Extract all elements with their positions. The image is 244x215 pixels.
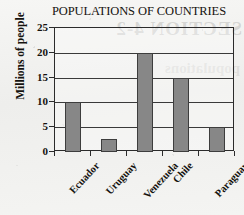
x-axis-tick-label: Uruguay — [104, 160, 139, 197]
y-axis-tick-label: 10 — [20, 95, 48, 107]
y-axis-tick-label: 5 — [20, 120, 48, 132]
y-axis-labels-group: 0510152025 — [12, 0, 48, 215]
y-axis-tick — [49, 77, 54, 78]
y-axis-tick-label: 0 — [20, 145, 48, 157]
bar — [101, 139, 117, 152]
x-axis-tick — [126, 151, 127, 156]
x-axis-tick-label: Paraguay — [213, 160, 244, 199]
bar-chart: POPULATIONS OF COUNTRIES Millions of peo… — [0, 0, 244, 215]
x-axis-tick-label: Ecuador — [67, 160, 101, 196]
y-axis-tick — [49, 126, 54, 127]
y-axis-tick — [49, 101, 54, 102]
y-axis-tick-label: 15 — [20, 71, 48, 83]
x-axis-tick — [162, 151, 163, 156]
y-axis-tick — [49, 52, 54, 53]
x-axis-tick — [234, 151, 235, 156]
y-axis-tick — [49, 27, 54, 28]
plot-area — [54, 27, 234, 151]
x-axis-tick — [54, 151, 55, 156]
x-axis-tick — [198, 151, 199, 156]
bar — [137, 53, 153, 152]
y-axis-tick-label: 25 — [20, 21, 48, 33]
bar — [173, 78, 189, 152]
bar — [209, 127, 225, 152]
y-axis-tick-label: 20 — [20, 46, 48, 58]
x-axis-tick — [90, 151, 91, 156]
bar — [65, 102, 81, 152]
